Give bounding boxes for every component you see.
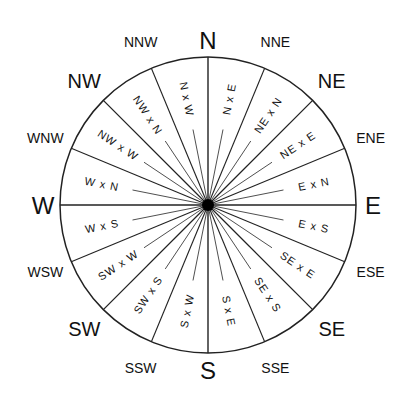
by-point-label-7: S x E — [220, 294, 238, 327]
by-point-label-12: W x N — [84, 175, 121, 194]
intercardinal-label-se: SE — [318, 318, 345, 340]
cardinal-label-w: W — [32, 192, 55, 219]
by-point-label-5: SE x E — [278, 249, 318, 281]
by-point-label-0: N x E — [220, 82, 238, 116]
by-point-label-11: W x S — [84, 217, 120, 235]
cardinal-label-e: E — [365, 192, 381, 219]
cardinal-label-s: S — [200, 357, 216, 384]
by-point-label-2: NE x E — [278, 129, 318, 161]
tertiary-label-nnw: NNW — [124, 34, 158, 50]
compass-rose-diagram: NESWNESESWNWNNEENEESESSESSWWSWWNWNNWN x … — [0, 0, 409, 396]
by-point-label-1: NE x N — [252, 95, 285, 136]
by-point-label-3: E x N — [297, 175, 331, 193]
tertiary-label-sse: SSE — [261, 360, 289, 376]
intercardinal-label-nw: NW — [68, 70, 101, 92]
intercardinal-label-sw: SW — [68, 318, 100, 340]
tertiary-label-wnw: WNW — [27, 130, 64, 146]
tertiary-label-wsw: WSW — [28, 264, 65, 280]
compass-center-hub — [202, 199, 214, 211]
by-point-label-4: E x S — [297, 217, 330, 235]
by-point-label-15: N x W — [178, 81, 197, 118]
by-point-label-9: SW x S — [131, 274, 165, 316]
cardinal-label-n: N — [199, 27, 216, 54]
tertiary-label-ssw: SSW — [125, 360, 158, 376]
by-point-label-8: S x W — [178, 293, 196, 329]
intercardinal-label-ne: NE — [318, 70, 346, 92]
by-point-label-6: SE x S — [252, 275, 284, 315]
tertiary-label-ese: ESE — [357, 264, 385, 280]
by-point-label-13: NW x W — [96, 127, 141, 163]
by-point-label-10: SW x W — [96, 247, 141, 282]
tertiary-label-ene: ENE — [356, 130, 385, 146]
tertiary-label-nne: NNE — [261, 34, 291, 50]
by-point-label-14: NW x N — [131, 94, 165, 137]
